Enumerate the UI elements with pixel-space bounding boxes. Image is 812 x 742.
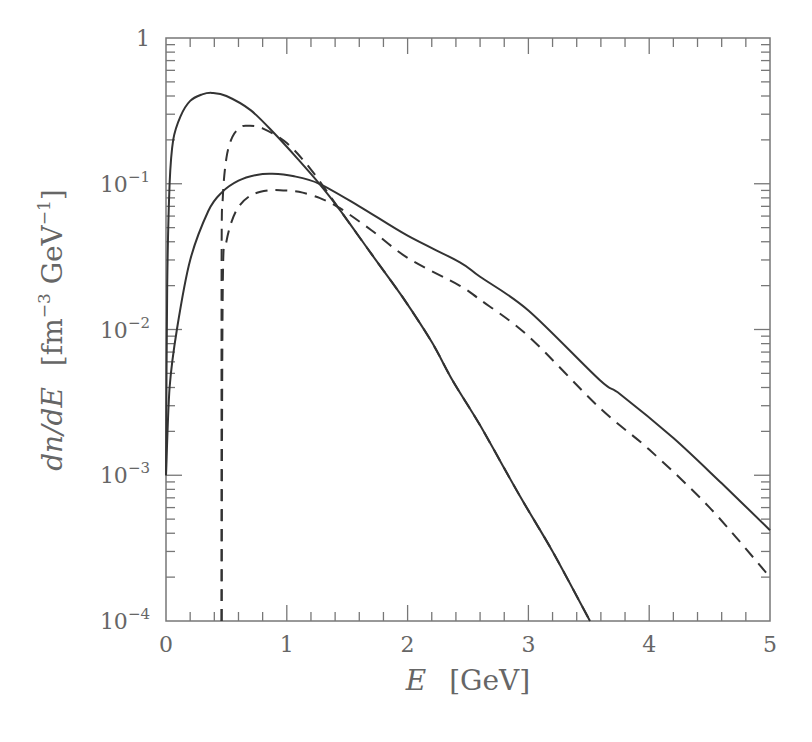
y-axis-exp2: −1 xyxy=(34,200,54,225)
y-axis-unit-mid: GeV xyxy=(36,224,69,293)
series-narrow-dashed xyxy=(222,126,590,621)
x-axis-tick-labels: 012345 xyxy=(159,632,777,657)
axis-ticks xyxy=(166,38,770,621)
x-tick-label: 1 xyxy=(280,632,294,657)
y-axis-unit-pre: [fm xyxy=(36,318,69,366)
y-axis-var: dn/dE xyxy=(36,387,69,471)
x-axis-var: E xyxy=(405,664,426,697)
x-tick-label: 4 xyxy=(642,632,656,657)
y-tick-label: 10−2 xyxy=(100,314,150,343)
plot-frame xyxy=(166,38,770,621)
chart: 012345 110−110−210−310−4 E [GeV] dn/dE [… xyxy=(0,0,812,742)
x-tick-label: 0 xyxy=(159,632,173,657)
x-axis-title: E [GeV] xyxy=(405,664,530,697)
y-axis-exp1: −3 xyxy=(34,293,54,318)
x-tick-label: 3 xyxy=(521,632,535,657)
x-tick-label: 5 xyxy=(763,632,777,657)
y-axis-unit-post: ] xyxy=(36,189,69,200)
x-axis-unit: [GeV] xyxy=(449,664,530,697)
y-tick-label: 10−4 xyxy=(100,605,150,634)
series-narrow-solid xyxy=(166,93,590,621)
y-axis-tick-labels: 110−110−210−310−4 xyxy=(100,26,150,634)
y-tick-label: 1 xyxy=(136,26,150,51)
y-tick-label: 10−1 xyxy=(100,168,150,197)
y-tick-label: 10−3 xyxy=(100,459,150,488)
x-tick-label: 2 xyxy=(401,632,415,657)
data-series xyxy=(166,93,770,621)
series-broad-dashed xyxy=(222,190,770,621)
plot-border xyxy=(166,38,770,621)
y-axis-title: dn/dE [fm−3 GeV−1] xyxy=(34,189,69,471)
